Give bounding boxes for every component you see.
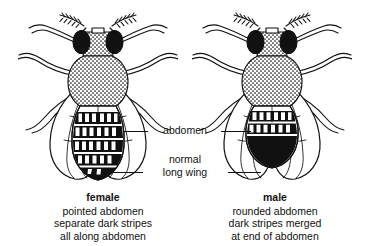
- caption-female-line1: pointed abdomen: [28, 205, 178, 218]
- caption-male-line2: dark stripes merged: [200, 217, 350, 230]
- label-abdomen: abdomen: [150, 124, 220, 137]
- label-normal-long-wing: normal long wing: [145, 153, 225, 178]
- caption-female-line2: separate dark stripes: [28, 217, 178, 230]
- caption-male-sex: male: [200, 191, 350, 204]
- caption-male-line3: at end of abdomen: [200, 230, 350, 243]
- label-abdomen-text: abdomen: [150, 124, 220, 137]
- leader-line-wing-right: [228, 172, 261, 173]
- fly-comparison-figure: abdomen normal long wing female pointed …: [0, 0, 371, 246]
- caption-female: female pointed abdomen separate dark str…: [28, 191, 178, 242]
- caption-female-line3: all along abdomen: [28, 230, 178, 243]
- caption-male: male rounded abdomen dark stripes merged…: [200, 191, 350, 242]
- caption-female-sex: female: [28, 191, 178, 204]
- leader-line-wing-left: [112, 172, 143, 173]
- label-wing-line1: normal: [145, 153, 225, 166]
- label-wing-line2: long wing: [145, 166, 225, 179]
- leader-line-abdomen-right: [221, 131, 251, 132]
- leader-line-abdomen-left: [124, 131, 148, 132]
- caption-male-line1: rounded abdomen: [200, 205, 350, 218]
